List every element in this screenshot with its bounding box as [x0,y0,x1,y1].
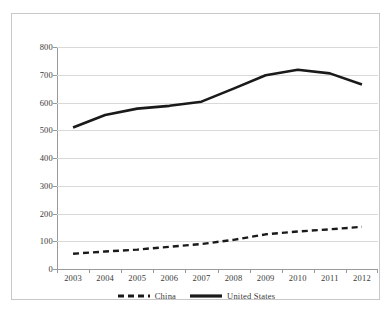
legend-entry-china[interactable]: China [118,291,176,301]
y-axis-tick-marks [12,47,58,269]
legend-label: China [155,291,176,301]
x-tick-label: 2007 [193,273,211,283]
x-axis-tick-labels: 2003200420052006200720082009201020112012 [57,273,378,287]
chart-legend: ChinaUnited States [12,291,381,301]
x-tick-label: 2003 [64,273,82,283]
x-tick-label: 2011 [321,273,339,283]
x-tick-label: 2006 [160,273,178,283]
legend-swatch-dashed-icon [118,292,150,300]
chart-frame: 0100200300400500600700800 20032004200520… [11,13,380,300]
x-tick-label: 2012 [353,273,371,283]
x-tick-label: 2004 [96,273,114,283]
legend-label: United States [227,291,275,301]
legend-swatch-solid-icon [190,292,222,300]
x-tick-label: 2008 [225,273,243,283]
series-line-china [73,227,362,254]
x-tick-label: 2005 [128,273,146,283]
series-line-united-states [73,70,362,128]
x-tick-label: 2009 [257,273,275,283]
series-container [57,47,378,269]
plot-area [57,47,378,269]
legend-entry-united-states[interactable]: United States [190,291,275,301]
x-tick-label: 2010 [289,273,307,283]
